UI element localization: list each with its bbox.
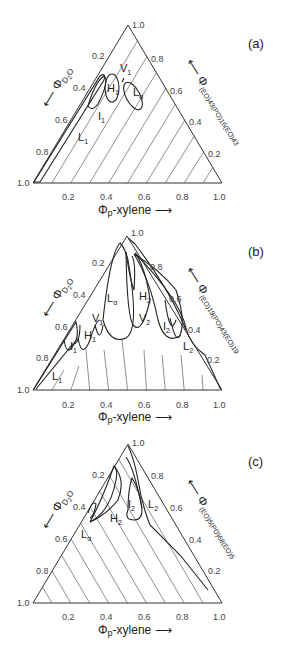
phase-label: L1 [78,131,88,145]
svg-text:1.0: 1.0 [17,385,30,395]
svg-text:1.0: 1.0 [132,438,145,448]
phase-label: I2 [128,498,135,512]
phase-labels-b: L1 I1 H1 V1 Lα V2 H2 I2 L2 [52,290,193,384]
bottom-axis-label: Φp-xylene ⟶ [98,203,172,218]
svg-text:0.4: 0.4 [189,535,202,545]
svg-text:1.0: 1.0 [132,20,145,30]
panel-b: L1 I1 H1 V1 Lα V2 H2 I2 L2 1.0 0.8 0.6 0… [17,228,264,425]
svg-text:0.4: 0.4 [100,400,113,410]
svg-text:0.8: 0.8 [176,612,189,622]
svg-text:0.2: 0.2 [62,400,75,410]
svg-text:0.4: 0.4 [188,325,201,335]
svg-text:0.6: 0.6 [138,612,151,622]
svg-text:0.6: 0.6 [138,400,151,410]
phase-label: Lα [133,86,143,100]
left-axis-label: ⟵ ΦD2O [39,274,77,322]
svg-text:0.6: 0.6 [55,534,68,544]
phase-label: V1 [92,312,103,326]
svg-text:1.0: 1.0 [213,612,226,622]
svg-text:0.8: 0.8 [176,192,189,202]
phase-label: Lα [81,528,91,542]
svg-text:0.8: 0.8 [151,471,164,481]
svg-text:0.6: 0.6 [170,503,183,513]
right-axis-label: ⟵ Φ(EO)43(PO)16(EO)43 [182,56,247,147]
svg-text:0.4: 0.4 [100,612,113,622]
svg-text:0.8: 0.8 [151,54,164,64]
svg-text:0.8: 0.8 [36,566,49,576]
panel-tag-a: (a) [248,36,264,51]
svg-text:0.4: 0.4 [100,192,113,202]
svg-text:1.0: 1.0 [213,400,226,410]
phase-label: H1 [84,329,96,343]
right-axis-label: ⟵ Φ(EO)5(PO)68(EO)5 [182,476,243,561]
svg-text:0.6: 0.6 [55,115,68,125]
svg-text:0.6: 0.6 [138,192,151,202]
panel-tag-c: (c) [248,454,263,469]
svg-text:0.8: 0.8 [176,400,189,410]
ternary-diagram-a: L1 I1 H1 V1 Lα 1.0 0.8 0.6 0.4 0.2 0.2 0… [0,0,288,652]
svg-text:1.0: 1.0 [131,228,144,238]
svg-text:0.4: 0.4 [73,83,86,93]
svg-text:0.2: 0.2 [62,612,75,622]
svg-text:0.4: 0.4 [73,502,86,512]
svg-text:0.2: 0.2 [207,355,220,365]
svg-text:0.2: 0.2 [92,470,105,480]
panel-c: Lα H2 I2 L2 1.0 0.8 0.6 0.4 0.2 0.2 0.4 … [17,438,263,638]
bottom-axis-label: Φp-xylene ⟶ [98,410,172,425]
phase-label: V2 [139,312,150,326]
svg-text:0.2: 0.2 [208,566,221,576]
svg-text:0.2: 0.2 [208,149,221,159]
svg-text:0.4: 0.4 [189,117,202,127]
svg-text:0.6: 0.6 [55,322,68,332]
svg-text:1.0: 1.0 [17,178,30,188]
svg-text:1.0: 1.0 [17,598,30,608]
phase-label: I1 [98,110,105,124]
svg-text:1.0: 1.0 [213,192,226,202]
phase-label: V1 [120,62,131,76]
svg-text:0.4: 0.4 [73,290,86,300]
svg-text:0.6: 0.6 [170,86,183,96]
phase-label: L2 [148,498,158,512]
svg-text:0.6: 0.6 [169,294,182,304]
left-axis-label: ⟵ ΦD2O [39,486,77,534]
panel-a: L1 I1 H1 V1 Lα 1.0 0.8 0.6 0.4 0.2 0.2 0… [17,20,264,218]
svg-text:0.8: 0.8 [36,147,49,157]
svg-text:0.2: 0.2 [92,51,105,61]
phase-label: H2 [110,512,122,526]
svg-text:0.2: 0.2 [62,192,75,202]
phase-boundaries-c [88,446,208,590]
bottom-axis-label: Φp-xylene ⟶ [98,623,172,638]
svg-text:0.2: 0.2 [92,258,105,268]
left-axis-label: ⟵ ΦD2O [39,64,77,112]
svg-text:0.8: 0.8 [36,353,49,363]
svg-text:0.8: 0.8 [150,262,163,272]
phase-label: L1 [52,370,62,384]
panel-tag-b: (b) [248,244,264,259]
phase-label: Lα [107,292,117,306]
tick-labels-a: 1.0 0.8 0.6 0.4 0.2 0.2 0.4 0.6 0.8 1.0 … [17,20,226,202]
phase-boundaries-b [34,238,221,389]
phase-label: H1 [107,82,119,96]
